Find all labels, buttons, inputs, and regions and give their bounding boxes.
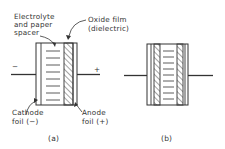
cathode-label-2: foil (−) [12,118,38,126]
oxide-film-b-left [154,44,160,105]
oxide-leader [69,20,86,36]
minus-sign: − [12,63,18,71]
oxide-film-a [64,43,73,105]
oxide-label-1: Oxide film [88,16,127,24]
anode-label-1: Anode [82,109,106,117]
anode-label-2: foil (+) [82,118,108,126]
caption-b: (b) [161,135,172,143]
electrolyte-label-3: spacer [14,29,39,37]
oxide-film-b-right [177,44,183,105]
capacitor-b [124,44,213,105]
electrolyte-lines-b [163,51,174,99]
caption-a: (a) [48,135,59,143]
oxide-label-2: (dielectric) [88,25,129,33]
cathode-label-1: Cathode [12,109,44,117]
electrolyte-lines-a [46,51,60,100]
plus-sign: + [94,66,100,74]
